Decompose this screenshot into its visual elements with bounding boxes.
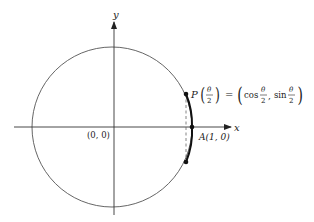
cos-numerator: θ [261,86,266,94]
sin-denominator: 2 [289,97,293,105]
sin-numerator: θ [289,86,294,94]
point-A [190,125,195,130]
paren-close-2: ) [297,83,302,106]
sin-text: sin [274,90,287,100]
cos-text: cos [244,90,258,100]
point-P [184,92,189,97]
point-P-label: P ( θ 2 ) = ( cos θ 2 , sin θ 2 ) [190,83,303,106]
cos-denominator: 2 [261,97,265,105]
P-arg-numerator: θ [207,86,212,94]
equals-sign: = [225,89,233,100]
paren-open-2: ( [237,83,242,106]
point-A-label: A(1, 0) [198,132,230,142]
point-P-name: P [190,89,198,100]
unit-circle-diagram: y x (0, 0) A(1, 0) P ( θ 2 ) = ( cos θ 2… [0,0,314,222]
point-P-conjugate [184,160,189,165]
origin-label: (0, 0) [87,130,110,140]
paren-open-1: ( [200,85,205,106]
point-A-text: A(1, 0) [198,132,230,142]
comma: , [268,91,271,101]
x-axis-label: x [234,122,240,133]
y-axis-label: y [112,9,119,20]
P-arg-denominator: 2 [207,97,211,105]
paren-close-1: ) [215,85,220,106]
